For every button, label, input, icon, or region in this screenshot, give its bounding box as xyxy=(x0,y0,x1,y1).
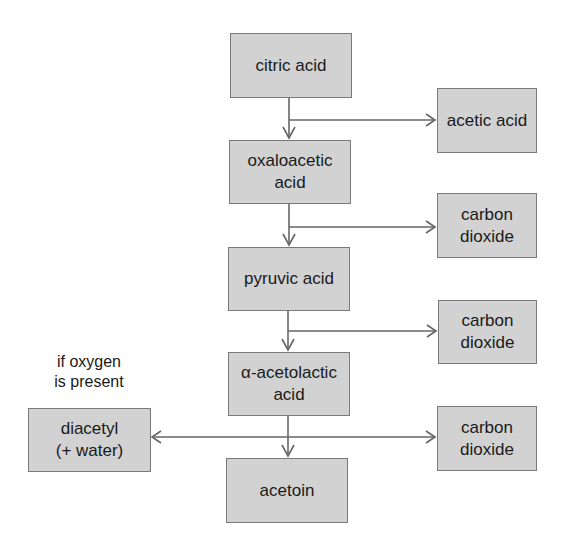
node-label-line-2: dioxide xyxy=(460,439,514,461)
node-label-line-2: acid xyxy=(241,384,337,406)
node-citric-acid: citric acid xyxy=(230,33,352,98)
node-label-line-2: dioxide xyxy=(460,226,514,248)
node-label-line-1: carbon xyxy=(461,310,515,332)
node-label-line-1: carbon xyxy=(460,204,514,226)
node-label-line-2: (+ water) xyxy=(56,440,124,462)
node-label-line-1: carbon xyxy=(460,417,514,439)
node-carbon-dioxide-3: carbon dioxide xyxy=(437,406,537,471)
node-label-line-2: acid xyxy=(247,172,332,194)
node-acetic-acid: acetic acid xyxy=(437,88,537,153)
node-diacetyl: diacetyl (+ water) xyxy=(28,408,151,472)
node-carbon-dioxide-2: carbon dioxide xyxy=(438,300,537,364)
node-carbon-dioxide-1: carbon dioxide xyxy=(437,193,537,258)
node-label-line-1: diacetyl xyxy=(56,418,124,440)
node-pyruvic-acid: pyruvic acid xyxy=(228,247,350,311)
node-label: acetoin xyxy=(260,480,315,502)
node-label-line-1: oxaloacetic xyxy=(247,150,332,172)
node-acetoin: acetoin xyxy=(226,458,348,523)
note-line-1: if oxygen xyxy=(28,352,150,372)
condition-note: if oxygen is present xyxy=(28,352,150,392)
node-oxaloacetic-acid: oxaloacetic acid xyxy=(229,140,351,204)
node-label-line-1: α-acetolactic xyxy=(241,362,337,384)
node-label: pyruvic acid xyxy=(244,268,334,290)
node-label: citric acid xyxy=(256,55,327,77)
node-acetolactic-acid: α-acetolactic acid xyxy=(228,352,350,416)
node-label: acetic acid xyxy=(447,110,527,132)
node-label-line-2: dioxide xyxy=(461,332,515,354)
note-line-2: is present xyxy=(28,372,150,392)
